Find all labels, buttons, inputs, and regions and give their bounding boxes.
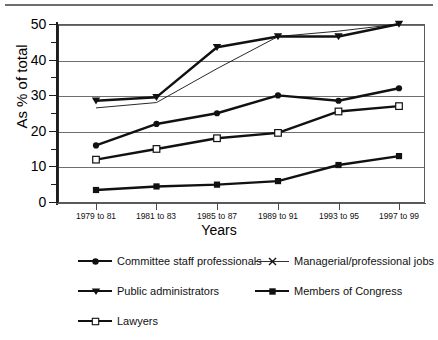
- data-point: [275, 130, 282, 137]
- chart-legend: Committee staff professionals Managerial…: [0, 248, 438, 340]
- data-point: [396, 153, 402, 159]
- data-point: [396, 85, 402, 91]
- legend-label: Lawyers: [117, 315, 158, 327]
- series-lawyers: [93, 103, 403, 163]
- chart-page: 50 40 30 20 10 0 As % of total 1979 to 8…: [0, 0, 438, 340]
- legend-item-managerial-professional-jobs[interactable]: Managerial/professional jobs: [255, 250, 434, 272]
- legend-label: Members of Congress: [294, 285, 402, 297]
- legend-item-public-administrators[interactable]: Public administrators: [78, 280, 219, 302]
- series-line: [96, 24, 399, 101]
- open-square-icon: [78, 314, 112, 328]
- series-public-administrators: [92, 21, 403, 105]
- data-point: [275, 92, 281, 98]
- data-point: [93, 142, 99, 148]
- data-point: [275, 178, 281, 184]
- data-point: [396, 103, 403, 110]
- data-series-layer: [0, 0, 438, 240]
- series-line: [96, 24, 399, 108]
- legend-item-lawyers[interactable]: Lawyers: [78, 310, 158, 332]
- filled-triangle-down-icon: [78, 284, 112, 298]
- series-managerial-professional-jobs: [96, 24, 399, 108]
- legend-label: Public administrators: [117, 285, 219, 297]
- data-point: [153, 183, 159, 189]
- data-point: [93, 156, 100, 163]
- data-point: [335, 98, 341, 104]
- series-line: [96, 156, 399, 190]
- data-point: [335, 108, 342, 115]
- line-chart: 50 40 30 20 10 0 As % of total 1979 to 8…: [0, 0, 438, 240]
- legend-label: Committee staff professionals: [117, 255, 262, 267]
- filled-circle-icon: [78, 254, 112, 268]
- data-point: [93, 187, 99, 193]
- data-point: [214, 135, 221, 142]
- x-cross-icon: [255, 254, 289, 268]
- data-point: [335, 162, 341, 168]
- data-point: [153, 146, 160, 153]
- data-point: [214, 110, 220, 116]
- data-point: [153, 121, 159, 127]
- series-members-of-congress: [93, 153, 402, 193]
- series-committee-staff-professionals: [93, 85, 402, 148]
- data-point: [214, 182, 220, 188]
- legend-item-members-of-congress[interactable]: Members of Congress: [255, 280, 402, 302]
- legend-item-committee-staff-professionals[interactable]: Committee staff professionals: [78, 250, 262, 272]
- legend-label: Managerial/professional jobs: [294, 255, 434, 267]
- series-line: [96, 106, 399, 160]
- series-line: [96, 88, 399, 145]
- filled-square-icon: [255, 284, 289, 298]
